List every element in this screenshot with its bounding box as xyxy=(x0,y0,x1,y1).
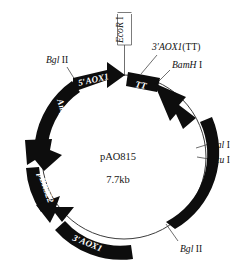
bgl2-top-numeral: II xyxy=(59,54,68,65)
tt-label: TT xyxy=(135,79,148,91)
plasmid-diagram: EcoR I 3′AOX1(TT) BamH I Bgl II Sal I St… xyxy=(0,0,249,267)
bamh1-label: BamH I xyxy=(172,59,202,70)
ecor1-label: EcoR I xyxy=(114,17,125,44)
feature-ampicillin: Ampicillin xyxy=(25,81,80,171)
three-aox1-tt-roman: (TT) xyxy=(182,41,200,53)
feature-five-aox1: 5′AOX1 xyxy=(73,62,125,92)
feature-his4: His4 xyxy=(154,83,219,229)
feature-three-aox1: 3′AOX1 xyxy=(55,221,133,260)
ecor1-enzyme: EcoR xyxy=(114,22,125,44)
three-aox1-tt-label: 3′AOX1(TT) xyxy=(151,41,200,53)
bamh1-enzyme: BamH xyxy=(172,59,198,70)
bgl2-top-label: Bgl II xyxy=(46,54,68,65)
bamh1-numeral: I xyxy=(197,59,203,70)
feature-pbr322: pBR322 xyxy=(26,167,74,223)
bamh1-site: BamH I xyxy=(156,59,202,84)
bgl2-top-enzyme: Bgl xyxy=(46,54,60,65)
bgl2-bottom-enzyme: Bgl xyxy=(180,243,194,254)
stu1-numeral: I xyxy=(224,154,230,165)
plasmid-name-label: pAO815 xyxy=(100,151,136,162)
bgl2-bottom-label: Bgl II xyxy=(180,243,202,254)
ecor1-numeral: I xyxy=(114,17,125,23)
bgl2-bottom-numeral: II xyxy=(193,243,202,254)
ampicillin-arrowhead-shape xyxy=(25,139,62,171)
plasmid-map-figure: EcoR I 3′AOX1(TT) BamH I Bgl II Sal I St… xyxy=(0,0,249,267)
plasmid-size-label: 7.7kb xyxy=(106,174,130,185)
bgl2-bottom-site: Bgl II xyxy=(166,224,202,254)
his4-arc-shape xyxy=(166,117,219,229)
five-aox1-label: 5′AOX1 xyxy=(77,71,110,88)
three-aox1-tt-leader-line xyxy=(141,55,157,74)
ampicillin-label: Ampicillin xyxy=(55,97,77,140)
three-aox1-tt-italic: 3′AOX1 xyxy=(151,41,182,52)
feature-tt: TT xyxy=(126,72,160,92)
sal1-numeral: I xyxy=(224,139,230,150)
ecor1-site: EcoR I xyxy=(114,13,132,77)
his4-arrowhead-shape xyxy=(154,83,196,129)
